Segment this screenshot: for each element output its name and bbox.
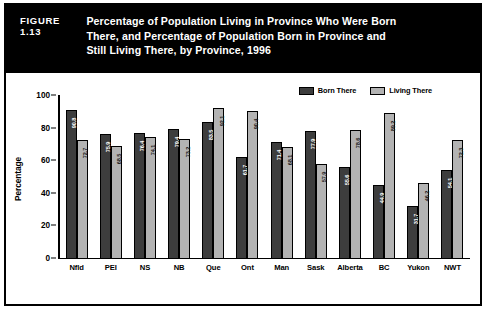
y-axis-tick-label: 80 <box>24 123 50 132</box>
bar-group: 44.989.2 <box>367 95 401 258</box>
bar-born-there: 77.9 <box>305 131 316 258</box>
bar-living-there: 78.6 <box>350 130 361 258</box>
bar-living-there: 92.1 <box>213 108 224 258</box>
bar-living-there: 72.3 <box>452 140 463 258</box>
bar-value-label: 77.9 <box>310 139 316 150</box>
x-axis-label: Sask <box>299 263 333 272</box>
bar-group: 54.172.3 <box>435 95 469 258</box>
legend-swatch-born-there-icon <box>299 87 314 95</box>
legend-label-born-there: Born There <box>318 86 356 95</box>
bar-born-there: 90.8 <box>66 110 77 258</box>
bar-value-label: 90.8 <box>71 118 77 129</box>
chart-legend: Born There Living There <box>299 86 432 95</box>
y-axis-tick-label: 100 <box>24 91 50 100</box>
bar-born-there: 31.7 <box>407 206 418 258</box>
y-axis-tick-mark <box>51 258 56 259</box>
bar-group: 76.474.1 <box>128 95 162 258</box>
bar-group: 31.746.2 <box>401 95 435 258</box>
x-axis-label: Alberta <box>333 263 367 272</box>
bar-group: 90.872.7 <box>60 95 94 258</box>
bar-groups: 90.872.775.968.576.474.179.473.283.592.1… <box>60 95 470 258</box>
figure-number: FIGURE 1.13 <box>20 14 82 37</box>
bar-value-label: 92.1 <box>219 116 225 127</box>
bar-living-there: 74.1 <box>145 137 156 258</box>
bar-group: 77.957.9 <box>299 95 333 258</box>
x-axis-label: Nfld <box>60 263 94 272</box>
bar-value-label: 72.3 <box>458 148 464 159</box>
bar-group: 79.473.2 <box>162 95 196 258</box>
y-axis-ticks: 020406080100 <box>30 95 56 258</box>
bar-living-there: 68.1 <box>282 147 293 258</box>
bar-living-there: 90.4 <box>247 111 258 258</box>
bar-value-label: 89.2 <box>390 120 396 131</box>
legend-entry-living-there: Living There <box>370 86 432 95</box>
bar-group: 71.468.1 <box>265 95 299 258</box>
bar-living-there: 72.7 <box>77 140 88 259</box>
legend-entry-born-there: Born There <box>299 86 356 95</box>
y-axis-tick-label: 40 <box>24 188 50 197</box>
x-axis-label: NWT <box>435 263 469 272</box>
x-axis-label: NB <box>162 263 196 272</box>
figure-title-line-1: Percentage of Population Living in Provi… <box>86 14 458 29</box>
bar-born-there: 76.4 <box>134 133 145 258</box>
bar-value-label: 68.5 <box>116 154 122 165</box>
x-axis-label: NS <box>128 263 162 272</box>
plot-area: 020406080100 90.872.775.968.576.474.179.… <box>58 95 470 258</box>
bar-born-there: 83.5 <box>202 122 213 258</box>
x-axis-label: Yukon <box>401 263 435 272</box>
bar-living-there: 73.2 <box>179 139 190 258</box>
y-axis-tick-mark <box>51 160 56 161</box>
bar-value-label: 74.1 <box>150 145 156 156</box>
bar-value-label: 78.6 <box>355 138 361 149</box>
bar-born-there: 55.6 <box>339 167 350 258</box>
bar-group: 75.968.5 <box>94 95 128 258</box>
x-axis-labels: NfldPEINSNBQueOntManSaskAlbertaBCYukonNW… <box>60 263 470 272</box>
bar-value-label: 57.9 <box>321 171 327 182</box>
legend-label-living-there: Living There <box>389 86 432 95</box>
y-axis-tick-mark <box>51 127 56 128</box>
y-axis-title: Percentage <box>13 157 23 201</box>
bar-born-there: 54.1 <box>441 170 452 258</box>
y-axis-tick-label: 60 <box>24 156 50 165</box>
x-axis-label: Que <box>196 263 230 272</box>
figure-title-line-2: There, and Percentage of Population Born… <box>86 29 458 44</box>
bar-living-there: 89.2 <box>384 113 395 258</box>
bar-group: 83.592.1 <box>196 95 230 258</box>
bar-group: 61.790.4 <box>230 95 264 258</box>
figure-frame: FIGURE 1.13 Percentage of Population Liv… <box>4 3 482 306</box>
bar-value-label: 46.2 <box>424 190 430 201</box>
bar-born-there: 79.4 <box>168 129 179 258</box>
x-axis-label: BC <box>367 263 401 272</box>
figure-title-line-3: Still Living There, by Province, 1996 <box>86 43 458 58</box>
bar-value-label: 73.2 <box>185 146 191 157</box>
chart-plot-container: Born There Living There Percentage 02040… <box>6 73 480 304</box>
bar-born-there: 71.4 <box>271 142 282 258</box>
bar-value-label: 68.1 <box>287 155 293 166</box>
bar-born-there: 44.9 <box>373 185 384 258</box>
y-axis-tick-mark <box>51 225 56 226</box>
figure-header-banner: FIGURE 1.13 Percentage of Population Liv… <box>6 5 480 73</box>
legend-swatch-living-there-icon <box>370 87 385 95</box>
bar-group: 55.678.6 <box>333 95 367 258</box>
y-axis-tick-label: 0 <box>24 254 50 263</box>
bar-value-label: 72.7 <box>82 147 88 158</box>
y-axis-tick-label: 20 <box>24 221 50 230</box>
figure-title: Percentage of Population Living in Provi… <box>86 14 458 58</box>
x-axis-label: Man <box>265 263 299 272</box>
bar-born-there: 61.7 <box>236 157 247 258</box>
bar-born-there: 75.9 <box>100 134 111 258</box>
bar-living-there: 57.9 <box>316 164 327 258</box>
y-axis-tick-mark <box>51 95 56 96</box>
y-axis-tick-mark <box>51 192 56 193</box>
bar-value-label: 90.4 <box>253 118 259 129</box>
x-axis-label: PEI <box>94 263 128 272</box>
bar-living-there: 46.2 <box>418 183 429 258</box>
bar-living-there: 68.5 <box>111 146 122 258</box>
x-axis-label: Ont <box>230 263 264 272</box>
